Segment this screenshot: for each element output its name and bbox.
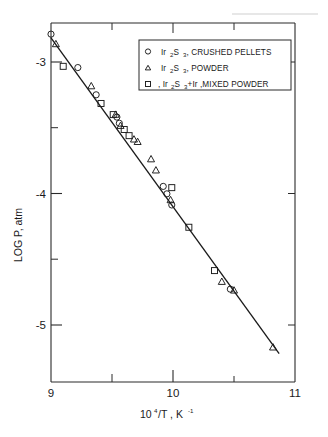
y-tick-label-neg5: -5 bbox=[36, 319, 46, 331]
data-point-circle bbox=[160, 183, 166, 189]
legend-label-1-lead: Ir bbox=[161, 64, 166, 73]
data-point-square bbox=[60, 63, 66, 69]
y-tick-labels: -3 -4 -5 bbox=[36, 56, 47, 331]
data-point-circle bbox=[93, 92, 99, 98]
x-tick-label-11: 11 bbox=[289, 387, 301, 399]
data-point-square bbox=[211, 268, 217, 274]
x-tick-label-10: 10 bbox=[167, 387, 180, 399]
data-point-triangle bbox=[152, 167, 159, 173]
y-tick-label-neg3: -3 bbox=[36, 56, 46, 68]
data-point-triangle bbox=[117, 122, 124, 128]
x-tick-label-9: 9 bbox=[48, 387, 54, 399]
legend-label-0-tail: , CRUSHED PELLETS bbox=[187, 48, 272, 57]
data-point-triangle bbox=[218, 278, 225, 284]
data-point-square bbox=[121, 126, 127, 132]
x-axis-title-mid: /T , K bbox=[158, 408, 183, 420]
series-2-markers bbox=[60, 63, 217, 273]
legend-label-1-tail: , POWDER bbox=[187, 64, 229, 73]
scatter-plot-svg: -3 -4 -5 9 10 11 LOG P, atm 10 4 /T , K … bbox=[0, 0, 328, 437]
y-axis-title: LOG P, atm bbox=[12, 208, 24, 262]
x-axis-title-base: 10 bbox=[140, 408, 152, 420]
legend-entry-crushed-pellets: Ir 2 S 3 , CRUSHED PELLETS bbox=[161, 48, 272, 58]
legend-label-2-mid: S bbox=[175, 80, 181, 89]
y-axis-ticks bbox=[51, 62, 295, 325]
y-tick-label-neg4: -4 bbox=[36, 188, 47, 200]
data-point-circle bbox=[164, 191, 170, 197]
legend-label-0-mid: S bbox=[174, 48, 180, 57]
data-point-triangle bbox=[88, 82, 95, 88]
data-point-triangle bbox=[270, 344, 277, 350]
chart-figure: -3 -4 -5 9 10 11 LOG P, atm 10 4 /T , K … bbox=[0, 0, 328, 437]
data-point-square bbox=[169, 185, 175, 191]
x-tick-labels: 9 10 11 bbox=[48, 387, 301, 399]
legend-entry-mixed-powder: , Ir 2 S 3 +Ir ,MIXED POWDER bbox=[158, 80, 269, 90]
legend-label-1-mid: S bbox=[174, 64, 180, 73]
legend-label-2-lead: , Ir bbox=[158, 80, 168, 89]
data-point-triangle bbox=[148, 155, 155, 161]
legend-label-2-tail: +Ir ,MIXED POWDER bbox=[188, 80, 269, 89]
x-axis-title-exponent2: -1 bbox=[188, 407, 194, 414]
x-axis-title: 10 4 /T , K -1 bbox=[140, 407, 194, 420]
data-point-circle bbox=[75, 64, 81, 70]
legend-label-0-lead: Ir bbox=[161, 48, 166, 57]
data-point-square bbox=[126, 133, 132, 139]
chart-legend: Ir 2 S 3 , CRUSHED PELLETS Ir 2 S 3 , PO… bbox=[139, 40, 291, 90]
